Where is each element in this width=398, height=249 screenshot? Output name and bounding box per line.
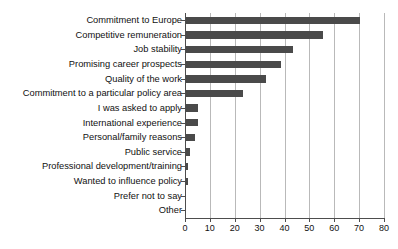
category-label: Wanted to influence policy bbox=[74, 174, 182, 188]
category-label: Other bbox=[159, 203, 182, 217]
bar bbox=[186, 46, 293, 53]
bar-rows: Commitment to EuropeCompetitive remunera… bbox=[0, 13, 398, 218]
x-tick bbox=[359, 218, 360, 222]
category-label: International experience bbox=[83, 116, 182, 130]
bar bbox=[186, 90, 243, 97]
category-tick bbox=[181, 64, 185, 65]
category-label: Prefer not to say bbox=[114, 189, 182, 203]
bar bbox=[186, 31, 323, 38]
category-tick bbox=[181, 152, 185, 153]
category-label: Commitment to Europe bbox=[86, 13, 182, 27]
bar-row: Other bbox=[0, 203, 398, 218]
bar bbox=[186, 134, 195, 141]
bar-row: I was asked to apply bbox=[0, 101, 398, 116]
bar bbox=[186, 163, 188, 170]
bar bbox=[186, 148, 190, 155]
category-label: I was asked to apply bbox=[98, 101, 182, 115]
category-label: Quality of the work bbox=[105, 72, 182, 86]
category-tick bbox=[181, 93, 185, 94]
x-tick bbox=[384, 218, 385, 222]
category-tick bbox=[181, 123, 185, 124]
x-tick bbox=[210, 218, 211, 222]
bar bbox=[186, 61, 281, 68]
category-tick bbox=[181, 35, 185, 36]
x-tick bbox=[309, 218, 310, 222]
category-tick bbox=[181, 79, 185, 80]
category-label: Public service bbox=[125, 145, 182, 159]
category-label: Commitment to a particular policy area bbox=[23, 86, 182, 100]
category-label: Personal/family reasons bbox=[83, 130, 182, 144]
category-tick bbox=[181, 108, 185, 109]
x-tick-label: 80 bbox=[369, 223, 398, 234]
x-tick bbox=[334, 218, 335, 222]
category-tick bbox=[181, 196, 185, 197]
bar-row: Commitment to Europe bbox=[0, 13, 398, 28]
category-tick bbox=[181, 20, 185, 21]
bar-row: Commitment to a particular policy area bbox=[0, 86, 398, 101]
x-tick bbox=[185, 218, 186, 222]
x-tick bbox=[285, 218, 286, 222]
bar bbox=[186, 104, 198, 111]
category-label: Competitive remuneration bbox=[76, 28, 182, 42]
bar bbox=[186, 119, 198, 126]
category-tick bbox=[181, 49, 185, 50]
bar-row: Wanted to influence policy bbox=[0, 174, 398, 189]
bar-row: International experience bbox=[0, 116, 398, 131]
category-label: Promising career prospects bbox=[69, 57, 182, 71]
bar-row: Professional development/training bbox=[0, 159, 398, 174]
category-label: Job stability bbox=[133, 42, 182, 56]
bar-row: Job stability bbox=[0, 42, 398, 57]
bar-row: Prefer not to say bbox=[0, 189, 398, 204]
bar bbox=[186, 75, 266, 82]
bar bbox=[186, 178, 188, 185]
x-tick bbox=[260, 218, 261, 222]
category-tick bbox=[181, 210, 185, 211]
bar bbox=[186, 17, 360, 24]
bar-row: Promising career prospects bbox=[0, 57, 398, 72]
category-tick bbox=[181, 181, 185, 182]
bar-row: Public service bbox=[0, 145, 398, 160]
category-tick bbox=[181, 166, 185, 167]
bar-row: Personal/family reasons bbox=[0, 130, 398, 145]
x-tick bbox=[235, 218, 236, 222]
bar-row: Quality of the work bbox=[0, 72, 398, 87]
horizontal-bar-chart: Commitment to EuropeCompetitive remunera… bbox=[0, 0, 398, 249]
category-label: Professional development/training bbox=[42, 159, 182, 173]
category-tick bbox=[181, 137, 185, 138]
bar-row: Competitive remuneration bbox=[0, 28, 398, 43]
